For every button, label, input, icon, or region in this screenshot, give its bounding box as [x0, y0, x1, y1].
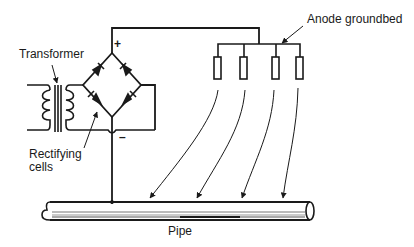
pipe-label: Pipe	[168, 225, 192, 238]
transformer-icon	[27, 85, 155, 133]
anode-groundbed-label: Anode groundbed	[307, 13, 402, 26]
anode-2	[240, 57, 247, 79]
transformer-label: Transformer	[19, 48, 84, 61]
anode-3	[272, 57, 279, 79]
anode-1	[214, 57, 221, 79]
current-flow-arrows	[150, 88, 298, 198]
anode-groundbed	[214, 44, 303, 79]
rectifying-cells-icon	[88, 63, 136, 104]
cathodic-protection-diagram	[0, 0, 414, 247]
positive-terminal-label: +	[114, 37, 121, 51]
rectifying-cells-label-line2: cells	[29, 161, 53, 174]
negative-terminal-label: –	[119, 130, 126, 144]
bridge-rectifier	[83, 28, 259, 202]
pipe-icon	[42, 200, 314, 220]
anode-4	[296, 57, 303, 79]
